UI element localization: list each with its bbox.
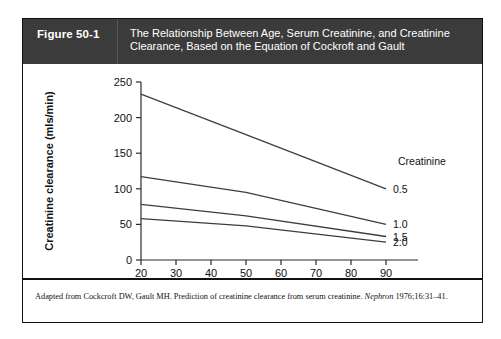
x-tick-label: 90 bbox=[380, 267, 392, 278]
y-tick-label: 0 bbox=[126, 254, 132, 266]
figure-number-label: Figure 50-1 bbox=[23, 19, 117, 40]
y-tick-label: 100 bbox=[114, 183, 132, 195]
figure-header: Figure 50-1 The Relationship Between Age… bbox=[23, 19, 482, 64]
y-tick-label: 250 bbox=[114, 76, 132, 88]
series-line-1-0 bbox=[141, 177, 386, 225]
figure-title: The Relationship Between Age, Serum Crea… bbox=[118, 19, 482, 52]
caption-prefix: Adapted from Cockcroft DW, Gault MH. Pre… bbox=[35, 292, 365, 301]
x-tick-label: 60 bbox=[275, 267, 287, 278]
y-tick-label: 150 bbox=[114, 147, 132, 159]
series-label-0-5: 0.5 bbox=[393, 183, 408, 195]
figure-caption: Adapted from Cockcroft DW, Gault MH. Pre… bbox=[23, 280, 482, 322]
series-label-2-0: 2.0 bbox=[393, 236, 408, 248]
y-tick-label: 50 bbox=[120, 218, 132, 230]
legend-title: Creatinine bbox=[398, 155, 446, 167]
x-tick-label: 50 bbox=[240, 267, 252, 278]
x-tick-label: 80 bbox=[345, 267, 357, 278]
x-tick-label: 20 bbox=[135, 267, 147, 278]
caption-suffix: 1976;16:31–41. bbox=[393, 292, 447, 301]
caption-journal-title: Nephron bbox=[365, 292, 394, 301]
y-axis-title: Creatinine clearance (mls/min) bbox=[43, 91, 55, 251]
chart-plot-area: 0501001502002502030405060708090AgeCreati… bbox=[23, 64, 482, 278]
figure-container: Figure 50-1 The Relationship Between Age… bbox=[22, 18, 483, 323]
y-tick-label: 200 bbox=[114, 112, 132, 124]
x-tick-label: 70 bbox=[310, 267, 322, 278]
line-chart: 0501001502002502030405060708090AgeCreati… bbox=[23, 64, 481, 278]
x-tick-label: 40 bbox=[205, 267, 217, 278]
series-label-1-0: 1.0 bbox=[393, 218, 408, 230]
x-tick-label: 30 bbox=[170, 267, 182, 278]
series-line-0-5 bbox=[141, 94, 386, 189]
series-line-1-5 bbox=[141, 204, 386, 236]
